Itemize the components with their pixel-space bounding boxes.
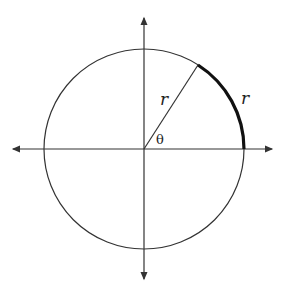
- arc-highlight: [198, 65, 244, 149]
- radian-diagram: r r θ: [0, 0, 292, 284]
- radius-line: [144, 65, 198, 149]
- radius-label: r: [160, 89, 169, 109]
- arc-label: r: [241, 88, 250, 108]
- angle-label: θ: [156, 132, 164, 147]
